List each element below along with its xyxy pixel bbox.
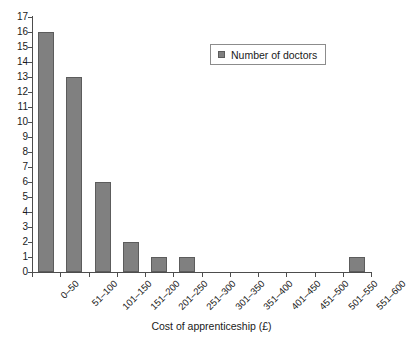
y-axis-tick-label: 7 <box>4 161 28 173</box>
y-axis-tick-mark <box>28 182 32 183</box>
x-axis-tick-mark <box>145 273 146 277</box>
y-axis-tick-label: 0 <box>4 266 28 278</box>
x-axis-tick-mark <box>343 273 344 277</box>
y-axis-tick-label: 13 <box>4 71 28 83</box>
x-axis-tick-label: 401–450 <box>289 278 323 312</box>
y-axis-tick-label: 4 <box>4 206 28 218</box>
y-axis-tick-label: 8 <box>4 146 28 158</box>
x-axis-tick-mark <box>173 273 174 277</box>
y-axis-tick-label: 9 <box>4 131 28 143</box>
y-axis-tick-label: 5 <box>4 191 28 203</box>
bar <box>151 257 167 272</box>
y-axis-tick-mark <box>28 227 32 228</box>
y-axis-tick-mark <box>28 47 32 48</box>
x-axis-tick-label: 251–300 <box>204 278 238 312</box>
y-axis-tick-mark <box>28 122 32 123</box>
x-axis-tick-label: 451–500 <box>317 278 351 312</box>
y-axis-tick-mark <box>28 32 32 33</box>
y-axis-tick-mark <box>28 197 32 198</box>
x-axis-tick-mark <box>230 273 231 277</box>
legend-swatch-icon <box>218 51 225 58</box>
y-axis-tick-label: 2 <box>4 236 28 248</box>
y-axis-tick-label: 12 <box>4 86 28 98</box>
y-axis-tick-mark <box>28 107 32 108</box>
chart-legend: Number of doctors <box>210 44 326 65</box>
y-axis-tick-label: 11 <box>4 101 28 113</box>
bar <box>38 32 54 272</box>
y-axis-tick-label: 15 <box>4 41 28 53</box>
y-axis-tick-mark <box>28 137 32 138</box>
y-axis-tick-mark <box>28 167 32 168</box>
x-axis-tick-label: 351–400 <box>261 278 295 312</box>
x-axis-tick-mark <box>258 273 259 277</box>
bar <box>95 182 111 272</box>
x-axis-tick-mark <box>202 273 203 277</box>
bar <box>179 257 195 272</box>
y-axis-tick-mark <box>28 212 32 213</box>
x-axis-tick-label: 101–150 <box>119 278 153 312</box>
y-axis-tick-mark <box>28 92 32 93</box>
x-axis-tick-mark <box>371 273 372 277</box>
y-axis-tick-mark <box>28 257 32 258</box>
x-axis-tick-mark <box>315 273 316 277</box>
y-axis-tick-mark <box>28 152 32 153</box>
y-axis-tick-label: 3 <box>4 221 28 233</box>
x-axis-tick-mark <box>117 273 118 277</box>
y-axis-tick-mark <box>28 77 32 78</box>
x-axis-tick-label: 301–350 <box>232 278 266 312</box>
legend-entry-label: Number of doctors <box>231 49 317 61</box>
x-axis-tick-mark <box>89 273 90 277</box>
y-axis-tick-label: 6 <box>4 176 28 188</box>
x-axis-tick-label: 151–200 <box>148 278 182 312</box>
x-axis-tick-label: 51–100 <box>90 278 120 308</box>
y-axis-tick-mark <box>28 242 32 243</box>
x-axis-tick-label: 0–50 <box>58 278 81 301</box>
bar <box>123 242 139 272</box>
x-axis-tick-label: 501–550 <box>345 278 379 312</box>
x-axis-title: Cost of apprenticeship (£) <box>0 320 387 332</box>
y-axis-tick-label: 10 <box>4 116 28 128</box>
x-axis-tick-label: 201–250 <box>176 278 210 312</box>
x-axis-tick-mark <box>286 273 287 277</box>
bar <box>349 257 365 272</box>
y-axis-tick-mark <box>28 17 32 18</box>
x-axis-tick-mark <box>60 273 61 277</box>
x-axis-tick-mark <box>32 273 33 277</box>
y-axis-tick-label: 14 <box>4 56 28 68</box>
x-axis-tick-label: 551–600 <box>374 278 408 312</box>
bar <box>66 77 82 272</box>
y-axis-tick-mark <box>28 62 32 63</box>
y-axis-tick-label: 1 <box>4 251 28 263</box>
y-axis-tick-label: 16 <box>4 26 28 38</box>
y-axis-tick-label: 17 <box>4 11 28 23</box>
y-axis-labels: 01234567891011121314151617 <box>0 0 28 342</box>
